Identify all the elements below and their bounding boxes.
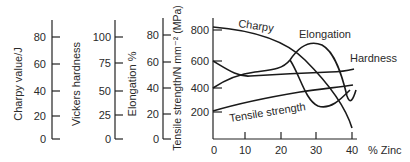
tick-label: 20 [34,110,46,122]
hardness-lower-loop [290,60,350,107]
tick-label: 80 [147,29,159,41]
tick-label: 200 [191,106,209,118]
tick-label: 0 [153,133,159,145]
hardness-curve [213,61,354,76]
zinc-properties-chart: 0 20 40 60 80 Charpy value/J Vickers har… [0,0,410,162]
tick-label: 600 [191,55,209,67]
x-tick-label: 0 [211,144,217,156]
tick-label: 0 [105,133,111,145]
tick-label: 40 [147,82,159,94]
vickers-axis-title: Vickers hardness [70,41,82,126]
curve-label-hardness: Hardness [350,52,398,64]
tick-label: 20 [147,108,159,120]
x-tick-label: 30 [310,144,322,156]
tick-label: 400 [191,82,209,94]
tick-label: 60 [34,58,46,70]
curve-label-elongation: Elongation [299,28,351,40]
elongation-axis-title: Elongation % [126,51,138,116]
vickers-axis: Vickers hardness 0 25 50 75 100 [70,20,123,145]
charpy-axis: 0 20 40 60 80 Charpy value/J [12,20,60,145]
tick-label: 80 [34,31,46,43]
x-tick-label: 20 [275,144,287,156]
x-axis-title: % Zinc [368,144,402,156]
x-tick-label: 40 [346,144,358,156]
tick-label: 800 [191,24,209,36]
elongation-axis: Elongation % 0 20 40 60 80 Tensile stren… [126,5,183,150]
tick-label: 50 [99,85,111,97]
tick-label: 25 [99,109,111,121]
tick-label: 60 [147,56,159,68]
tick-label: 75 [99,57,111,69]
tick-label: 40 [34,85,46,97]
tick-label: 0 [40,133,46,145]
charpy-axis-title: Charpy value/J [12,47,24,120]
main-plot-axes: 800 600 400 200 0 10 20 30 40 % Zinc [191,18,402,156]
tensile-axis-title: Tensile strength/N mm⁻² (MPa) [171,5,183,150]
x-tick-label: 10 [239,144,251,156]
tick-label: 100 [93,31,111,43]
